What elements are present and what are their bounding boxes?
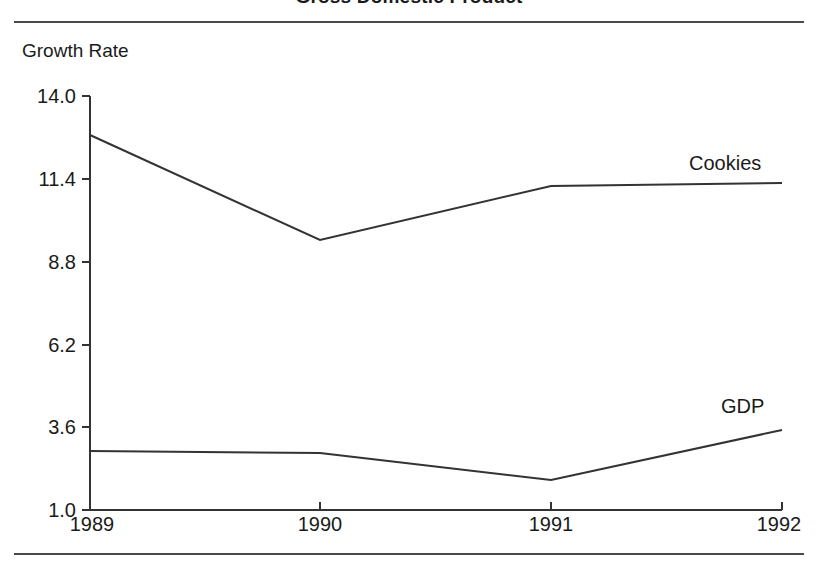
chart-figure: Gross Domestic Product Growth Rate 14.0 <box>0 0 818 578</box>
y-tick-label: 6.2 <box>0 334 76 357</box>
series-label-gdp: GDP <box>721 395 764 418</box>
y-tick-marks <box>82 179 90 510</box>
series-line-gdp <box>90 430 782 480</box>
y-tick-label: 8.8 <box>0 251 76 274</box>
x-tick-label: 1992 <box>757 513 802 536</box>
x-tick-label: 1989 <box>70 513 115 536</box>
x-tick-label: 1991 <box>529 513 574 536</box>
x-tick-marks <box>320 502 551 510</box>
y-axis-tick-labels: 14.0 11.4 8.8 6.2 3.6 1.0 <box>0 0 76 578</box>
series-label-cookies: Cookies <box>689 152 761 175</box>
y-tick-label: 14.0 <box>0 85 76 108</box>
x-tick-label: 1990 <box>298 513 343 536</box>
y-tick-label: 3.6 <box>0 416 76 439</box>
series-line-cookies <box>90 135 782 240</box>
plot-area <box>0 0 818 578</box>
y-tick-label: 11.4 <box>0 168 76 191</box>
y-tick-label: 1.0 <box>0 499 76 522</box>
footer-divider <box>14 553 804 555</box>
